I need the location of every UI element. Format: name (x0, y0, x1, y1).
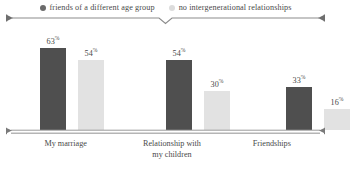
chart-legend: friends of a different age group no inte… (0, 0, 331, 15)
category-label-my-marriage: My marriage (12, 138, 119, 160)
legend-label: no intergenerational relationships (179, 3, 292, 12)
bar-group-my-marriage: 63% 54% (12, 26, 148, 130)
category-label-line1: My marriage (12, 138, 119, 149)
legend-item-friends-different-age-group[interactable]: friends of a different age group (40, 3, 155, 12)
bar-item[interactable]: 33% (286, 26, 312, 130)
top-divider-rule (6, 14, 325, 26)
bar-no-intergenerational-relationships[interactable] (204, 91, 230, 130)
category-label-line1: Friendships (225, 138, 319, 149)
category-label-relationship-with-my-children: Relationship with my children (119, 138, 224, 160)
legend-label: friends of a different age group (50, 3, 155, 12)
bar-item[interactable]: 54% (166, 26, 192, 130)
category-label-friendships: Friendships (225, 138, 319, 160)
bar-value-label: 54% (85, 48, 98, 58)
bar-no-intergenerational-relationships[interactable] (324, 109, 350, 130)
bar-value-label: 63% (47, 36, 60, 46)
bar-group-relationship-with-my-children: 54% 30% (148, 26, 272, 130)
bar-item[interactable]: 54% (78, 26, 104, 130)
bar-friends-different-age-group[interactable] (286, 87, 312, 130)
bar-item[interactable]: 30% (204, 26, 230, 130)
bar-group-friendships: 33% 16% (272, 26, 354, 130)
top-divider-icon (6, 14, 325, 26)
bar-value-label: 30% (211, 79, 224, 89)
legend-marker-circle-icon (169, 5, 175, 11)
bar-item[interactable]: 16% (324, 26, 350, 130)
bar-groups: 63% 54% 54% 30% (12, 26, 319, 130)
bar-friends-different-age-group[interactable] (166, 60, 192, 130)
bar-value-label: 54% (173, 48, 186, 58)
bar-item[interactable]: 63% (40, 26, 66, 130)
bar-no-intergenerational-relationships[interactable] (78, 60, 104, 130)
category-axis-labels: My marriage Relationship with my childre… (12, 138, 319, 160)
bar-friends-different-age-group[interactable] (40, 48, 66, 130)
plot-area: 63% 54% 54% 30% (0, 26, 331, 130)
category-label-line1: Relationship with (119, 138, 224, 149)
category-label-line2: my children (119, 149, 224, 160)
bar-value-label: 33% (293, 75, 306, 85)
bar-value-label: 16% (331, 97, 344, 107)
legend-item-no-intergenerational-relationships[interactable]: no intergenerational relationships (169, 3, 292, 12)
legend-marker-circle-icon (40, 5, 46, 11)
